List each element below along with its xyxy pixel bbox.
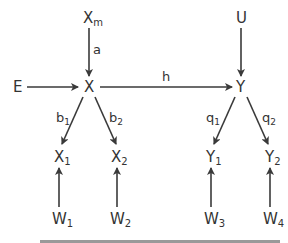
node-x2: X2: [111, 148, 128, 167]
node-u: U: [236, 9, 247, 27]
node-w4: W4: [263, 210, 284, 229]
coef-q1: q1: [206, 110, 220, 127]
coef-b1: b1: [56, 110, 70, 127]
node-w1: W1: [52, 210, 73, 229]
clipped-caption: [40, 236, 280, 243]
node-w2: W2: [110, 210, 131, 229]
coef-q2: q2: [262, 110, 276, 127]
coef-a: a: [93, 42, 101, 57]
node-y2: Y2: [264, 148, 281, 167]
coef-h: h: [162, 69, 170, 84]
node-y: Y: [235, 78, 246, 96]
path-diagram: Xm E X U Y X1 X2 Y1 Y2 W1 W2 W3 W4 a h b…: [0, 0, 288, 243]
coef-b2: b2: [109, 110, 123, 127]
node-w3: W3: [204, 210, 225, 229]
node-x: X: [84, 78, 94, 96]
node-x1: X1: [54, 148, 71, 167]
node-xm: Xm: [83, 9, 103, 28]
node-y1: Y1: [205, 148, 222, 167]
node-e: E: [13, 78, 22, 96]
